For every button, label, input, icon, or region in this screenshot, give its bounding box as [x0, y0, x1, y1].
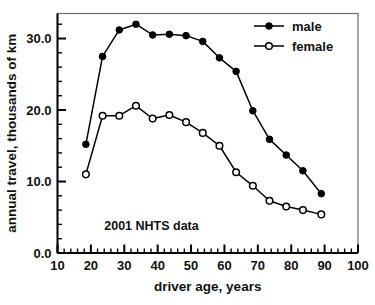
y-axis-tick-label: 30.0	[26, 31, 51, 46]
x-axis-tick-label: 20	[84, 258, 98, 273]
data-point-male	[199, 38, 206, 45]
x-axis-tick-label: 90	[317, 258, 331, 273]
y-axis-tick-label: 20.0	[26, 103, 51, 118]
data-point-male	[133, 21, 140, 28]
data-point-male	[266, 136, 273, 143]
chart-annotations: 2001 NHTS data	[104, 219, 200, 233]
data-point-female	[318, 211, 325, 218]
x-axis-tick-label: 80	[284, 258, 298, 273]
y-axis-tick-label: 10.0	[26, 174, 51, 189]
x-axis-tick-label: 100	[347, 258, 369, 273]
data-point-female	[266, 198, 273, 205]
data-point-female	[183, 119, 190, 126]
data-point-female	[216, 142, 223, 149]
legend-marker-female	[266, 43, 273, 50]
data-point-female	[283, 203, 290, 210]
x-axis-tick-label: 60	[217, 258, 231, 273]
x-axis-tick-label: 30	[117, 258, 131, 273]
chart-annotation: 2001 NHTS data	[104, 219, 200, 233]
x-axis-tick-label: 50	[184, 258, 198, 273]
data-point-male	[283, 152, 290, 159]
legend-label-female: female	[292, 39, 333, 54]
x-axis-title: driver age, years	[154, 279, 261, 294]
data-point-female	[233, 169, 240, 176]
data-point-male	[149, 32, 156, 39]
y-axis-title: annual travel, thousands of km	[4, 34, 19, 233]
data-point-female	[149, 115, 156, 122]
data-point-male	[250, 107, 257, 114]
legend-marker-male	[266, 23, 273, 30]
x-axis-tick-label: 10	[50, 258, 64, 273]
data-point-male	[83, 141, 90, 148]
data-point-male	[99, 53, 106, 60]
y-axis-tick-label: 0.0	[33, 246, 51, 261]
data-point-female	[116, 112, 123, 119]
data-point-female	[166, 112, 173, 119]
chart-canvas: 0.010.020.030.0 102030405060708090100 ma…	[0, 0, 375, 305]
data-point-female	[83, 171, 90, 178]
data-point-male	[318, 190, 325, 197]
x-axis-tick-label: 40	[150, 258, 164, 273]
data-point-female	[99, 112, 106, 119]
data-point-female	[199, 130, 206, 137]
chart-figure: 0.010.020.030.0 102030405060708090100 ma…	[0, 0, 375, 305]
data-point-male	[233, 68, 240, 75]
legend-label-male: male	[292, 19, 322, 34]
data-point-male	[216, 55, 223, 62]
data-point-male	[166, 31, 173, 38]
data-point-female	[250, 183, 257, 190]
x-axis-tick-label: 70	[251, 258, 265, 273]
data-point-female	[133, 102, 140, 109]
data-point-male	[300, 167, 307, 174]
data-point-male	[116, 27, 123, 34]
data-point-male	[183, 32, 190, 39]
data-point-female	[300, 207, 307, 214]
